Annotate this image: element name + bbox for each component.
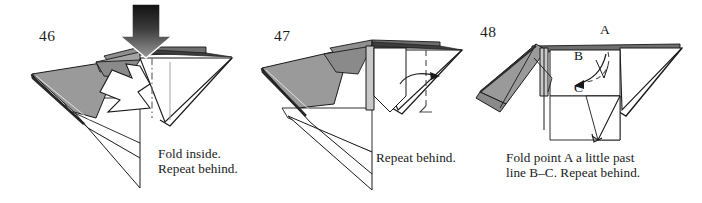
origami-figure-47 — [240, 0, 470, 203]
instruction-panel-48: 48 — [470, 0, 702, 203]
origami-instruction-strip: 46 — [0, 0, 702, 203]
panel-caption-48: Fold point A a little past line B–C. Rep… — [506, 150, 640, 181]
paper-facet-center-spine-47 — [366, 46, 374, 110]
point-label-c: C — [574, 80, 583, 96]
panel-caption-46: Fold inside. Repeat behind. — [158, 146, 238, 177]
paper-facet-right-white — [140, 58, 232, 122]
instruction-panel-47: 47 — [240, 0, 470, 203]
point-label-b: B — [574, 48, 583, 64]
point-label-a: A — [600, 22, 610, 38]
panel-caption-47: Repeat behind. — [376, 150, 456, 165]
instruction-panel-46: 46 — [0, 0, 240, 203]
paper-facet-right-white-48 — [620, 48, 682, 110]
paper-facet-center-square-48 — [550, 50, 620, 96]
fold-line-tip-47 — [420, 106, 432, 112]
paper-facet-left-gray-48 — [480, 44, 546, 104]
